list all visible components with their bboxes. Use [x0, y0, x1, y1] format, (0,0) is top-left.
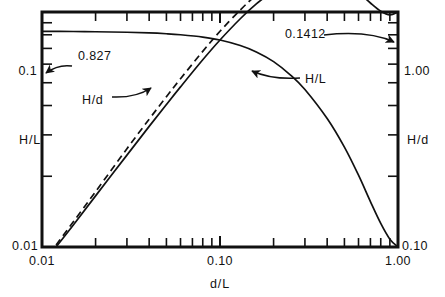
y-axis-ticks-left	[42, 12, 54, 247]
x-axis-ticks-top	[96, 12, 398, 23]
annotation-leaders	[46, 34, 394, 98]
x-axis-ticks-bottom	[96, 236, 398, 247]
data-curves	[42, 0, 398, 247]
ytick-label-right-0: 1.00	[404, 64, 430, 78]
figure-container: 0.827 0.1412 H/d H/L 0.1 0.01 1.00 0.10 …	[0, 0, 445, 297]
ytick-label-right-1: 0.10	[402, 239, 428, 253]
ytick-label-left-0: 0.1	[18, 64, 37, 78]
xtick-label-2: 1.00	[385, 254, 411, 268]
annotation-01412: 0.1412	[285, 27, 326, 41]
y-axis-title-left: H/L	[19, 133, 41, 147]
leader-827	[46, 66, 72, 73]
curve-h-over-l-dashed	[56, 0, 288, 245]
xtick-label-0: 0.01	[29, 254, 55, 268]
curve-label-hl: H/L	[305, 72, 326, 86]
leader-1412	[324, 34, 394, 42]
xtick-label-1: 0.10	[207, 254, 233, 268]
curve-h-over-l	[56, 0, 398, 247]
curve-h-over-d	[42, 31, 398, 247]
ytick-label-left-1: 0.01	[12, 239, 38, 253]
x-axis-title: d/L	[210, 277, 230, 291]
chart-svg: 0.827 0.1412 H/d H/L 0.1 0.01 1.00 0.10 …	[0, 0, 445, 297]
annotation-0827: 0.827	[78, 49, 111, 63]
y-axis-ticks-right	[386, 12, 398, 247]
y-axis-title-right: H/d	[407, 133, 429, 147]
plot-frame	[42, 12, 398, 247]
leader-hd-curve	[112, 88, 151, 97]
curve-label-hd: H/d	[82, 93, 103, 107]
